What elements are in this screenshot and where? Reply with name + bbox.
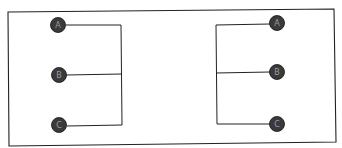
right-node-c: C bbox=[270, 117, 285, 132]
left-node-a: A bbox=[51, 18, 66, 33]
right-node-a: A bbox=[270, 16, 285, 31]
left-branch-b bbox=[66, 74, 122, 75]
right-bus-line bbox=[216, 24, 270, 124]
left-bus-line bbox=[66, 25, 122, 126]
node-label: B bbox=[56, 71, 62, 80]
right-node-b: B bbox=[270, 65, 285, 80]
node-label: B bbox=[274, 68, 280, 77]
left-node-c: C bbox=[52, 118, 67, 133]
diagram-canvas: A B C A B C bbox=[0, 0, 342, 148]
node-label: A bbox=[55, 21, 61, 30]
node-label: C bbox=[56, 121, 62, 130]
right-branch-b bbox=[216, 72, 270, 73]
right-group: A B C bbox=[216, 16, 285, 132]
node-label: C bbox=[274, 120, 280, 129]
node-label: A bbox=[274, 19, 280, 28]
left-node-b: B bbox=[52, 68, 67, 83]
left-group: A B C bbox=[51, 18, 123, 133]
